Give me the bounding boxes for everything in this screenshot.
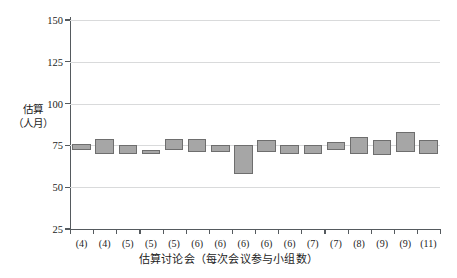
x-tick-label-13: (9) — [376, 238, 388, 250]
x-tick-label-12: (8) — [353, 238, 365, 250]
x-tick-label-15: (11) — [420, 238, 436, 250]
y-tick-label-75: 75 — [53, 140, 64, 151]
x-tick-mark-9 — [278, 229, 279, 234]
range-bar[interactable] — [95, 139, 114, 154]
y-tick-mark-50 — [65, 187, 70, 188]
x-tick-mark-3 — [139, 229, 140, 234]
range-bar[interactable] — [188, 139, 207, 152]
x-tick-mark-14 — [394, 229, 395, 234]
y-tick-mark-150 — [65, 19, 70, 20]
x-tick-label-8: (6) — [261, 238, 273, 250]
range-bar[interactable] — [396, 132, 415, 152]
x-axis-title: 估算讨论会（每次会议参与小组数） — [0, 252, 457, 266]
range-bar[interactable] — [327, 142, 346, 150]
x-tick-mark-16 — [440, 229, 441, 234]
range-bar[interactable] — [119, 145, 138, 153]
plot-area: 255075100125150(4)(4)(5)(5)(5)(6)(6)(6)(… — [70, 20, 440, 229]
range-bar[interactable] — [234, 145, 253, 173]
range-bar[interactable] — [257, 140, 276, 152]
range-bar[interactable] — [72, 144, 91, 151]
x-tick-label-9: (6) — [284, 238, 296, 250]
x-tick-mark-10 — [301, 229, 302, 234]
x-tick-label-7: (6) — [238, 238, 250, 250]
y-axis-title-line-2: （人月） — [4, 117, 62, 131]
x-tick-label-4: (5) — [168, 238, 180, 250]
gridline-y-50 — [70, 187, 440, 188]
x-tick-label-2: (5) — [122, 238, 134, 250]
y-tick-mark-125 — [65, 61, 70, 62]
y-tick-mark-100 — [65, 103, 70, 104]
y-tick-label-50: 50 — [53, 182, 64, 193]
x-tick-label-6: (6) — [214, 238, 226, 250]
x-tick-label-14: (9) — [399, 238, 411, 250]
x-tick-mark-1 — [93, 229, 94, 234]
range-bar[interactable] — [350, 137, 369, 154]
estimation-range-chart: 估算 （人月） 255075100125150(4)(4)(5)(5)(5)(6… — [0, 0, 457, 278]
gridline-y-150 — [70, 20, 440, 21]
x-tick-mark-4 — [163, 229, 164, 234]
range-bar[interactable] — [419, 140, 438, 153]
x-tick-label-5: (6) — [191, 238, 203, 250]
x-tick-mark-12 — [348, 229, 349, 234]
y-tick-label-100: 100 — [47, 98, 63, 109]
gridline-y-125 — [70, 62, 440, 63]
x-tick-mark-7 — [232, 229, 233, 234]
x-tick-mark-13 — [371, 229, 372, 234]
x-tick-label-11: (7) — [330, 238, 342, 250]
x-tick-mark-8 — [255, 229, 256, 234]
range-bar[interactable] — [280, 145, 299, 153]
range-bar[interactable] — [211, 145, 230, 152]
range-bar[interactable] — [304, 145, 323, 153]
x-tick-label-0: (4) — [76, 238, 88, 250]
x-tick-label-3: (5) — [145, 238, 157, 250]
y-tick-label-125: 125 — [47, 56, 63, 67]
y-tick-mark-75 — [65, 145, 70, 146]
x-tick-mark-2 — [116, 229, 117, 234]
x-tick-mark-11 — [324, 229, 325, 234]
range-bar[interactable] — [165, 139, 184, 151]
x-tick-mark-6 — [209, 229, 210, 234]
range-bar[interactable] — [142, 150, 161, 153]
x-tick-label-10: (7) — [307, 238, 319, 250]
x-tick-mark-15 — [417, 229, 418, 234]
x-tick-mark-0 — [70, 229, 71, 234]
x-tick-label-1: (4) — [99, 238, 111, 250]
x-tick-mark-5 — [186, 229, 187, 234]
gridline-y-100 — [70, 104, 440, 105]
y-tick-label-150: 150 — [47, 15, 63, 26]
y-tick-label-25: 25 — [53, 224, 64, 235]
range-bar[interactable] — [373, 140, 392, 155]
